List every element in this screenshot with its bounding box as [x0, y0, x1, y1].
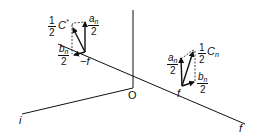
- left-vector-group: [72, 22, 85, 55]
- left-half-fraction: 1 2: [48, 16, 56, 38]
- right-f-label: f: [177, 88, 180, 99]
- right-vector-group: [181, 50, 195, 86]
- right-bn-fraction: bn 2: [197, 72, 208, 95]
- left-bn-fraction: bn 2: [58, 44, 69, 67]
- left-neg-f-label: −f: [80, 56, 89, 67]
- diagram-canvas: [0, 0, 259, 136]
- i-axis: [22, 88, 133, 114]
- origin-label: O: [128, 90, 137, 101]
- left-an-fraction: an 2: [88, 14, 99, 37]
- right-cn-label: Cn: [207, 46, 219, 58]
- left-c-star-label: C*: [58, 18, 69, 31]
- f-axis-label: f: [239, 123, 242, 134]
- right-an-arrow: [181, 58, 182, 86]
- right-half-fraction: 1 2: [198, 43, 206, 65]
- right-cn-arrow: [182, 52, 193, 86]
- left-c-star-arrow: [73, 28, 85, 52]
- i-axis-label: i: [19, 115, 21, 126]
- right-an-fraction: an 2: [167, 53, 178, 76]
